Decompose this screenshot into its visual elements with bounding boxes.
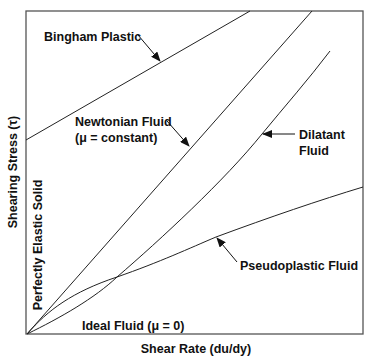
newtonian-label-line1: Newtonian Fluid — [75, 115, 172, 129]
ideal-fluid-label: Ideal Fluid (μ = 0) — [82, 319, 184, 333]
pseudoplastic-label: Pseudoplastic Fluid — [240, 259, 358, 273]
dilatant-label-line2: Fluid — [299, 144, 329, 158]
dilatant-fluid-curve — [27, 51, 330, 334]
x-axis-label: Shear Rate (du/dy) — [141, 342, 251, 356]
perfectly-elastic-solid-label: Perfectly Elastic Solid — [31, 180, 45, 311]
pseudoplastic-arrow — [217, 238, 237, 262]
plot-frame — [26, 11, 363, 334]
dilatant-label-line1: Dilatant — [299, 128, 346, 142]
newtonian-label-line2: (μ = constant) — [75, 131, 157, 145]
y-axis-label: Shearing Stress (τ) — [6, 116, 20, 229]
newtonian-fluid-curve — [27, 11, 312, 334]
bingham-plastic-label: Bingham Plastic — [44, 30, 141, 44]
bingham-arrow — [138, 35, 160, 61]
rheology-diagram: Bingham Plastic Newtonian Fluid (μ = con… — [0, 0, 373, 360]
